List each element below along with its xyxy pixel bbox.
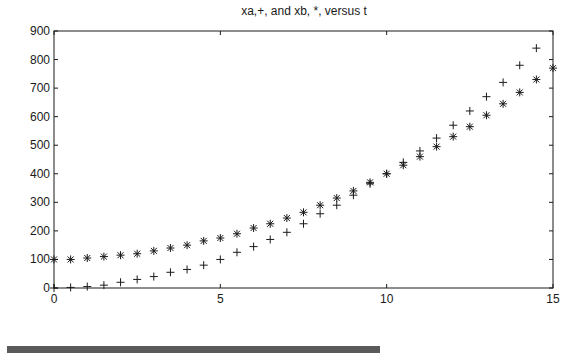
x-tick-label: 10 bbox=[380, 292, 394, 306]
x-axis: 051015 bbox=[51, 31, 560, 306]
xb-data-point bbox=[133, 250, 141, 258]
chart-title: xa,+, and xb, *, versus t bbox=[241, 4, 367, 18]
footer-divider-bar bbox=[7, 346, 380, 353]
xa-data-point bbox=[250, 243, 258, 251]
y-tick-label: 800 bbox=[30, 53, 50, 67]
xb-data-point bbox=[333, 194, 341, 202]
xa-data-point bbox=[499, 78, 507, 86]
xb-data-point bbox=[216, 234, 224, 242]
xb-data-point bbox=[300, 208, 308, 216]
xb-data-point bbox=[516, 88, 524, 96]
xb-data-point bbox=[83, 254, 91, 262]
scatter-chart: xa,+, and xb, *, versus t 01002003004005… bbox=[0, 0, 580, 361]
xa-data-point bbox=[166, 268, 174, 276]
xb-data-point bbox=[482, 111, 490, 119]
xb-data-point bbox=[150, 247, 158, 255]
xa-data-point bbox=[50, 284, 58, 292]
xb-data-point bbox=[466, 123, 474, 131]
xa-data-point bbox=[482, 93, 490, 101]
xb-data-point bbox=[200, 237, 208, 245]
xa-data-point bbox=[283, 228, 291, 236]
xb-data-point bbox=[532, 76, 540, 84]
y-axis: 0100200300400500600700800900 bbox=[30, 24, 553, 295]
xa-data-point bbox=[532, 44, 540, 52]
xb-data-point bbox=[183, 241, 191, 249]
y-tick-label: 300 bbox=[30, 195, 50, 209]
xb-data-point bbox=[233, 230, 241, 238]
xb-data-point bbox=[499, 100, 507, 108]
xb-data-point bbox=[399, 161, 407, 169]
xb-data-point bbox=[416, 153, 424, 161]
xb-data-point bbox=[366, 178, 374, 186]
y-tick-label: 500 bbox=[30, 138, 50, 152]
xa-data-point bbox=[333, 201, 341, 209]
xa-data-point bbox=[133, 275, 141, 283]
series-xb-star-markers bbox=[50, 64, 557, 263]
xa-data-point bbox=[233, 248, 241, 256]
xb-data-point bbox=[283, 214, 291, 222]
xb-data-point bbox=[316, 201, 324, 209]
xb-data-point bbox=[117, 251, 125, 259]
plot-area bbox=[54, 31, 553, 288]
xa-data-point bbox=[150, 273, 158, 281]
xb-data-point bbox=[549, 64, 557, 72]
xa-data-point bbox=[183, 265, 191, 273]
xa-data-point bbox=[433, 134, 441, 142]
xa-data-point bbox=[316, 210, 324, 218]
xb-data-point bbox=[449, 133, 457, 141]
y-tick-label: 700 bbox=[30, 81, 50, 95]
xb-data-point bbox=[166, 244, 174, 252]
xb-data-point bbox=[266, 220, 274, 228]
y-tick-label: 900 bbox=[30, 24, 50, 38]
x-tick-label: 15 bbox=[546, 292, 560, 306]
xa-data-point bbox=[466, 107, 474, 115]
xa-data-point bbox=[216, 255, 224, 263]
y-tick-label: 600 bbox=[30, 110, 50, 124]
xb-data-point bbox=[100, 253, 108, 261]
y-tick-label: 400 bbox=[30, 167, 50, 181]
x-tick-label: 0 bbox=[51, 292, 58, 306]
xa-data-point bbox=[117, 278, 125, 286]
xa-data-point bbox=[266, 235, 274, 243]
xa-data-point bbox=[516, 61, 524, 69]
xa-data-point bbox=[67, 283, 75, 291]
xa-data-point bbox=[449, 121, 457, 129]
xb-data-point bbox=[433, 143, 441, 151]
y-tick-label: 0 bbox=[43, 281, 50, 295]
y-tick-label: 200 bbox=[30, 224, 50, 238]
xb-data-point bbox=[67, 255, 75, 263]
xb-data-point bbox=[250, 224, 258, 232]
xb-data-point bbox=[383, 170, 391, 178]
x-tick-label: 5 bbox=[217, 292, 224, 306]
xb-data-point bbox=[50, 255, 58, 263]
xa-data-point bbox=[200, 261, 208, 269]
xb-data-point bbox=[349, 187, 357, 195]
y-tick-label: 100 bbox=[30, 252, 50, 266]
xa-data-point bbox=[300, 220, 308, 228]
xa-data-point bbox=[83, 283, 91, 291]
